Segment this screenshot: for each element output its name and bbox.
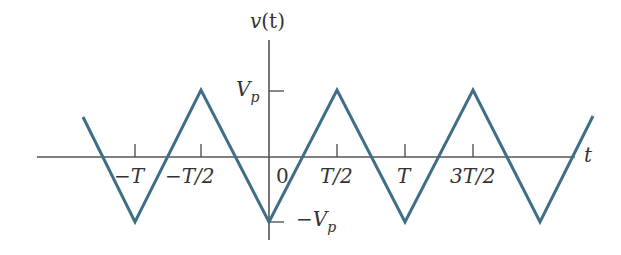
neg-vp-label: −Vp xyxy=(296,207,336,235)
x-axis-label: t xyxy=(584,143,593,167)
tick-label-3T-half: 3T/2 xyxy=(450,164,496,188)
tick-label-neg-T-half: −T/2 xyxy=(165,164,215,188)
tick-label-neg-T: −T xyxy=(114,164,146,188)
triangle-wave-diagram: v(t) t Vp −Vp −T −T/2 0 T/2 T 3T/2 xyxy=(0,0,621,255)
tick-label-zero: 0 xyxy=(276,164,289,188)
triangle-waveform xyxy=(83,90,593,222)
y-axis-label: v(t) xyxy=(250,9,285,33)
tick-label-T-half: T/2 xyxy=(320,164,353,188)
vp-label: Vp xyxy=(236,77,259,105)
tick-label-T: T xyxy=(397,164,412,188)
